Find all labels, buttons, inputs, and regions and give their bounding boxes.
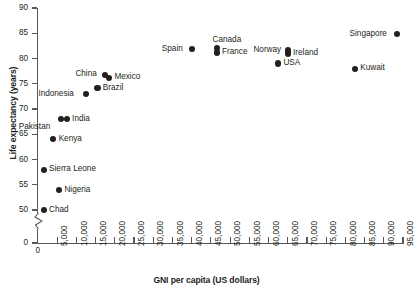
data-point-label: Norway bbox=[253, 46, 281, 54]
x-tick-mark bbox=[306, 237, 307, 243]
x-tick-label: 80,000 bbox=[349, 221, 358, 246]
x-tick-label: 70,000 bbox=[310, 221, 319, 246]
x-tick-mark bbox=[345, 237, 346, 243]
y-axis-line-lower bbox=[37, 229, 38, 244]
x-tick-label: 75,000 bbox=[329, 221, 338, 246]
x-tick-label: 65,000 bbox=[291, 221, 300, 246]
data-point bbox=[394, 31, 400, 37]
data-point bbox=[83, 91, 89, 97]
x-tick-mark bbox=[326, 237, 327, 243]
y-tick-mark bbox=[32, 108, 37, 109]
data-point-label: Canada bbox=[213, 36, 242, 44]
x-tick-label: 10,000 bbox=[80, 221, 89, 246]
data-point-label: Singapore bbox=[350, 30, 387, 38]
x-tick-mark bbox=[230, 237, 231, 243]
data-point-label: Ireland bbox=[293, 49, 318, 57]
data-point-label: Pakistan bbox=[19, 123, 50, 131]
data-point bbox=[41, 167, 47, 173]
data-point-label: Indonesia bbox=[38, 90, 74, 98]
y-axis-line bbox=[37, 8, 38, 213]
y-tick-label: 80 bbox=[6, 54, 28, 63]
data-point bbox=[56, 187, 62, 193]
x-tick-mark bbox=[249, 237, 250, 243]
x-tick-mark bbox=[364, 237, 365, 243]
data-point-label: India bbox=[72, 115, 90, 123]
x-tick-label: 45,000 bbox=[214, 221, 223, 246]
x-tick-label: 60,000 bbox=[272, 221, 281, 246]
x-axis-title: GNI per capita (US dollars) bbox=[0, 275, 413, 285]
y-tick-mark bbox=[32, 33, 37, 34]
y-tick-mark bbox=[32, 159, 37, 160]
data-point bbox=[50, 136, 56, 142]
x-tick-mark bbox=[402, 237, 403, 243]
y-tick-mark bbox=[32, 134, 37, 135]
x-tick-label: 25,000 bbox=[137, 221, 146, 246]
y-tick-label: 70 bbox=[6, 104, 28, 113]
y-tick-label: 60 bbox=[6, 155, 28, 164]
y-tick-mark bbox=[32, 184, 37, 185]
x-tick-label: 50,000 bbox=[233, 221, 242, 246]
x-tick-mark bbox=[153, 237, 154, 243]
data-point bbox=[41, 207, 47, 213]
data-point-label: France bbox=[222, 48, 247, 56]
y-tick-label: 75 bbox=[6, 79, 28, 88]
y-tick-label: 85 bbox=[6, 28, 28, 37]
x-tick-label: 0 bbox=[36, 246, 41, 255]
data-point bbox=[214, 49, 220, 55]
y-tick-mark bbox=[32, 242, 37, 243]
x-tick-mark bbox=[191, 237, 192, 243]
data-point-label: Kuwait bbox=[360, 64, 385, 72]
x-tick-label: 20,000 bbox=[118, 221, 127, 246]
y-tick-mark bbox=[32, 58, 37, 59]
data-point-label: Sierra Leone bbox=[49, 165, 96, 173]
x-tick-label: 85,000 bbox=[368, 221, 377, 246]
x-tick-label: 35,000 bbox=[176, 221, 185, 246]
data-point-label: USA bbox=[283, 59, 300, 67]
x-tick-label: 15,000 bbox=[99, 221, 108, 246]
data-point-label: China bbox=[75, 70, 96, 78]
y-tick-mark bbox=[32, 83, 37, 84]
data-point bbox=[94, 85, 100, 91]
data-point-label: Nigeria bbox=[64, 186, 90, 194]
data-point-label: Mexico bbox=[114, 73, 140, 81]
data-point bbox=[189, 46, 195, 52]
x-tick-label: 55,000 bbox=[253, 221, 262, 246]
data-point bbox=[275, 60, 281, 66]
x-tick-mark bbox=[210, 237, 211, 243]
x-tick-mark bbox=[383, 237, 384, 243]
y-tick-label: 90 bbox=[6, 3, 28, 12]
data-point bbox=[106, 75, 112, 81]
x-tick-mark bbox=[76, 237, 77, 243]
data-point bbox=[285, 50, 291, 56]
y-tick-mark bbox=[32, 209, 37, 210]
y-tick-label: 55 bbox=[6, 180, 28, 189]
x-tick-label: 40,000 bbox=[195, 221, 204, 246]
x-tick-mark bbox=[114, 237, 115, 243]
data-point-label: Chad bbox=[49, 206, 69, 214]
y-tick-label: 50 bbox=[6, 205, 28, 214]
x-tick-label: 95,000 bbox=[406, 221, 415, 246]
x-tick-mark bbox=[287, 237, 288, 243]
y-axis-break-icon bbox=[34, 213, 43, 229]
data-point bbox=[352, 66, 358, 72]
x-tick-mark bbox=[172, 237, 173, 243]
x-tick-mark bbox=[95, 237, 96, 243]
data-point-label: Brazil bbox=[103, 84, 123, 92]
x-tick-mark bbox=[57, 237, 58, 243]
y-tick-label: 0 bbox=[6, 238, 28, 247]
y-tick-mark bbox=[32, 7, 37, 8]
x-tick-mark bbox=[268, 237, 269, 243]
x-tick-label: 90,000 bbox=[387, 221, 396, 246]
x-tick-mark bbox=[133, 237, 134, 243]
data-point-label: Kenya bbox=[59, 135, 82, 143]
x-tick-label: 5,000 bbox=[60, 226, 69, 247]
data-point bbox=[64, 116, 70, 122]
x-tick-label: 30,000 bbox=[156, 221, 165, 246]
data-point-label: Spain bbox=[162, 45, 183, 53]
